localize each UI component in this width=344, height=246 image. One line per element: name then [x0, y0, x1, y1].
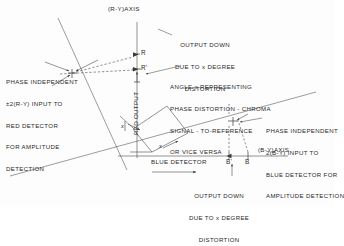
angle-symbol-lower: x: [159, 142, 162, 150]
leader-output-down-top: [158, 29, 172, 35]
annotation-blue-detector-note: PHASE INDEPENDENT 2(B-Y) INPUT TO BLUE D…: [266, 113, 344, 214]
vector-label-r: R: [141, 49, 146, 57]
r-prime-arrowhead: [133, 67, 139, 72]
angle-symbol-upper: x: [121, 122, 124, 130]
annotation-line: BLUE DETECTOR FOR: [266, 171, 344, 178]
red-output-axis-label: RED OUTPUT: [132, 92, 139, 135]
annotation-line: ANGLE x REPRESENTING: [170, 83, 271, 90]
annotation-line: ±2(R-Y) INPUT TO: [6, 100, 78, 107]
annotation-line: PHASE INDEPENDENT: [266, 127, 344, 134]
annotation-line: DETECTION: [6, 165, 78, 172]
annotation-line: PHASE DISTORTION - CHROMA: [170, 105, 271, 112]
annotation-line: 2(B-Y) INPUT TO: [266, 149, 344, 156]
vector-label-r-prime: R': [141, 64, 148, 72]
annotation-output-down-bottom: OUTPUT DOWN DUE TO x DEGREE DISTORTION: [189, 178, 249, 246]
annotation-line: OUTPUT DOWN: [175, 41, 235, 48]
annotation-line: DISTORTION: [189, 236, 249, 243]
annotation-red-detector-note: PHASE INDEPENDENT ±2(R-Y) INPUT TO RED D…: [6, 64, 78, 186]
r-arrowhead: [133, 52, 139, 57]
annotation-line: RED DETECTOR: [6, 122, 78, 129]
annotation-line: DUE TO x DEGREE: [189, 214, 249, 221]
annotation-angle-definition: ANGLE x REPRESENTING PHASE DISTORTION - …: [170, 69, 271, 170]
annotation-line: OUTPUT DOWN: [189, 192, 249, 199]
annotation-line: FOR AMPLITUDE: [6, 143, 78, 150]
annotation-line: PHASE INDEPENDENT: [6, 78, 78, 85]
r-y-axis-label: (R-Y)AXIS: [108, 5, 140, 12]
annotation-line: SIGNAL - TO-REFERENCE: [170, 127, 271, 134]
annotation-line: AMPLITUDE DETECTION: [266, 192, 344, 199]
annotation-line: OR VICE VERSA: [170, 148, 271, 155]
